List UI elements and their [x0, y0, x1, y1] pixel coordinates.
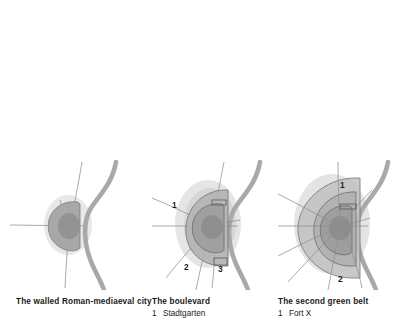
inner-core-shape	[58, 213, 80, 239]
legend-label: Fort X	[289, 308, 311, 319]
marker-1: 1	[340, 180, 345, 190]
caption-title: The second green belt	[278, 296, 368, 307]
caption-block-green-belt: The second green belt 1 Fort X	[278, 296, 368, 319]
inner-core-shape	[201, 215, 223, 239]
panel-3-svg: 1 2	[276, 160, 398, 290]
legend-label: Stadtgarten	[163, 308, 205, 319]
diagram-panel-boulevard: 1 2 3	[150, 160, 280, 290]
marker-2: 2	[338, 274, 343, 284]
caption-block-boulevard: The boulevard 1 Stadtgarten	[152, 296, 210, 319]
diagram-panel-walled-city	[8, 160, 138, 290]
caption-title: The boulevard	[152, 296, 210, 307]
marker-2: 2	[184, 262, 189, 272]
diagram-panel-second-green-belt: 1 2	[276, 160, 398, 290]
marker-3: 3	[218, 264, 223, 274]
legend-item: 1 Stadtgarten	[152, 308, 210, 319]
figure-root: 1 2 3	[0, 0, 398, 322]
panel-1-svg	[8, 160, 138, 290]
legend-number: 1	[152, 308, 163, 319]
panel-2-svg: 1 2 3	[150, 160, 280, 290]
caption-title: The walled Roman-mediaeval city	[16, 296, 152, 307]
legend-number: 1	[278, 308, 289, 319]
caption-block-walled-city: The walled Roman-mediaeval city	[16, 296, 152, 307]
legend-item: 1 Fort X	[278, 308, 368, 319]
marker-1: 1	[172, 200, 177, 210]
